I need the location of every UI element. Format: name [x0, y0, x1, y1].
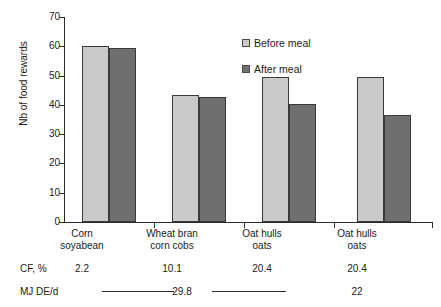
y-tick-label-60: 60	[30, 41, 60, 51]
cf-value-3: 20.4	[207, 263, 317, 274]
y-tick-label-0: 0	[30, 217, 60, 227]
bar-before-group-3	[262, 77, 289, 222]
plot-area: 70 60 50 40 30 20 10 0 Before meal	[64, 17, 432, 222]
bar-after-group-3	[289, 104, 316, 222]
category-label-4: Oat hulls oats	[302, 228, 412, 251]
y-tick-label-50: 50	[30, 71, 60, 81]
category-4-line2: oats	[302, 240, 412, 252]
bar-after-group-1	[109, 48, 136, 222]
x-tick-4	[432, 223, 433, 228]
category-label-3: Oat hulls oats	[207, 228, 317, 251]
legend-item-after-meal: After meal	[242, 63, 311, 75]
y-tick-label-40: 40	[30, 100, 60, 110]
legend-swatch-before-meal-icon	[242, 39, 250, 47]
legend: Before meal After meal	[242, 37, 311, 89]
y-tick-label-30: 30	[30, 129, 60, 139]
y-tick-label-70: 70	[30, 12, 60, 22]
cf-value-4: 20.4	[302, 263, 412, 274]
bar-chart-figure: Nb of food rewards 70 60 50 40 30 20 10 …	[0, 0, 441, 307]
category-3-line2: oats	[207, 240, 317, 252]
bar-after-group-2	[199, 97, 226, 222]
y-axis-line	[64, 17, 65, 223]
legend-label-before-meal: Before meal	[254, 37, 311, 49]
legend-label-after-meal: After meal	[254, 63, 302, 75]
legend-item-before-meal: Before meal	[242, 37, 311, 49]
category-3-line1: Oat hulls	[207, 228, 317, 240]
y-axis-title: Nb of food rewards	[18, 9, 29, 159]
mj-row-label: MJ DE/d	[20, 286, 58, 297]
bar-before-group-1	[82, 46, 109, 222]
category-4-line1: Oat hulls	[302, 228, 412, 240]
bar-before-group-4	[357, 77, 384, 222]
x-axis-line	[64, 222, 433, 223]
legend-swatch-after-meal-icon	[242, 65, 250, 73]
mj-value-2: 22	[302, 286, 412, 297]
mj-span-rule-right	[212, 291, 286, 292]
y-tick-label-20: 20	[30, 158, 60, 168]
y-tick-label-10: 10	[30, 188, 60, 198]
bar-before-group-2	[172, 95, 199, 222]
bar-after-group-4	[384, 115, 411, 222]
